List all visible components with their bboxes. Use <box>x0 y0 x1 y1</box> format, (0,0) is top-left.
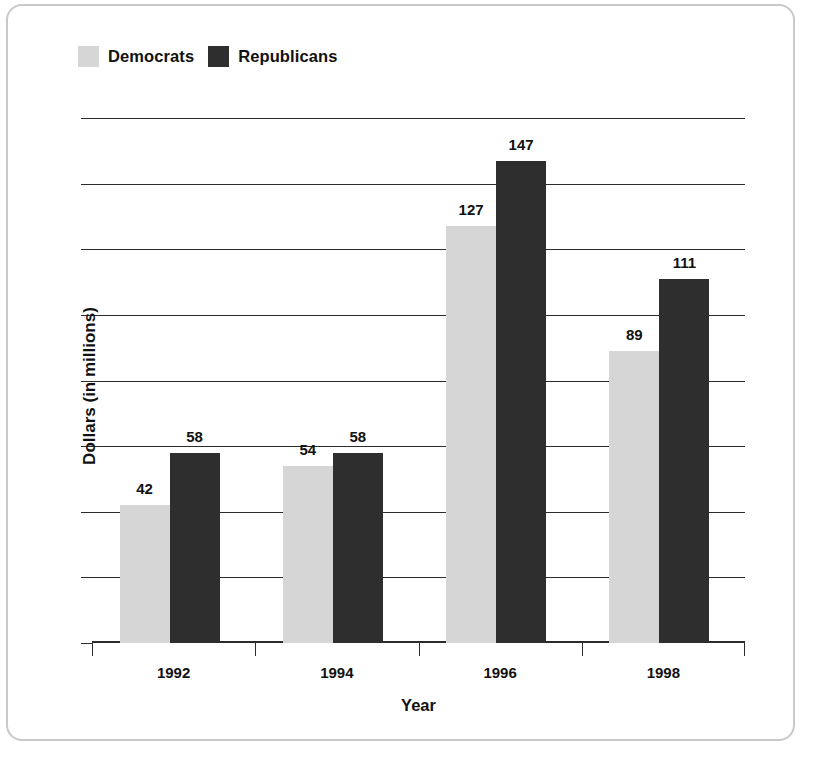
x-category-label-1998: 1998 <box>582 664 745 681</box>
plot-area: 020406080100120140160 425854581271478911… <box>92 118 745 643</box>
bar-democrats-1998: 89 <box>609 351 659 643</box>
bar-value-label-democrats-1994: 54 <box>300 441 317 458</box>
y-axis-title: Dollars (in millions) <box>80 36 100 736</box>
legend-swatch-republicans <box>208 46 229 67</box>
x-category-label-1996: 1996 <box>419 664 582 681</box>
bar-republicans-1996: 147 <box>496 161 546 643</box>
page-canvas: Democrats Republicans 020406080100120140… <box>0 0 833 772</box>
bar-value-label-democrats-1996: 127 <box>459 201 484 218</box>
x-tick-mark-1 <box>255 643 256 656</box>
bar-republicans-1994: 58 <box>333 453 383 643</box>
legend-entry-republicans: Republicans <box>208 46 337 67</box>
bar-democrats-1992: 42 <box>120 505 170 643</box>
bar-value-label-republicans-1996: 147 <box>509 136 534 153</box>
bar-value-label-democrats-1998: 89 <box>626 326 643 343</box>
bar-value-label-republicans-1998: 111 <box>673 254 696 271</box>
x-tick-mark-3 <box>582 643 583 656</box>
bar-republicans-1998: 111 <box>659 279 709 643</box>
x-tick-mark-end <box>744 643 745 656</box>
bar-democrats-1994: 54 <box>283 466 333 643</box>
bar-republicans-1992: 58 <box>170 453 220 643</box>
legend-label-republicans: Republicans <box>238 47 337 66</box>
bar-democrats-1996: 127 <box>446 226 496 643</box>
legend-label-democrats: Democrats <box>108 47 194 66</box>
bar-value-label-republicans-1992: 58 <box>186 428 203 445</box>
bar-chart: Democrats Republicans 020406080100120140… <box>0 0 833 772</box>
x-tick-mark-2 <box>419 643 420 656</box>
bar-value-label-democrats-1992: 42 <box>136 480 153 497</box>
bar-value-label-republicans-1994: 58 <box>350 428 367 445</box>
x-category-label-1994: 1994 <box>255 664 418 681</box>
x-axis-title: Year <box>92 696 745 715</box>
chart-legend: Democrats Republicans <box>78 46 337 67</box>
x-category-label-1992: 1992 <box>92 664 255 681</box>
